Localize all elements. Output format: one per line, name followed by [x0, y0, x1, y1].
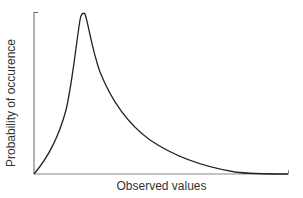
distribution-curve — [34, 13, 288, 174]
x-axis-label: Observed values — [34, 178, 289, 194]
skewed-distribution-chart — [0, 0, 303, 198]
y-axis-label: Probability of occurence — [3, 23, 19, 183]
